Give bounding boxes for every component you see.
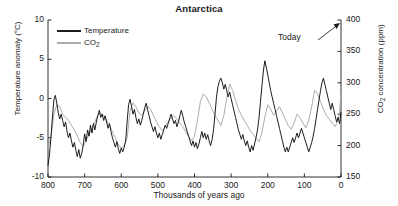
today-arrow-head bbox=[334, 23, 340, 29]
data-series-co2 bbox=[48, 84, 341, 149]
chart-figure: Antarctica Temperature anomaly (°C) CO2 … bbox=[0, 0, 398, 206]
data-series-temperature bbox=[48, 61, 341, 165]
today-arrow-line bbox=[318, 25, 337, 40]
chart-plot-area bbox=[0, 0, 398, 206]
